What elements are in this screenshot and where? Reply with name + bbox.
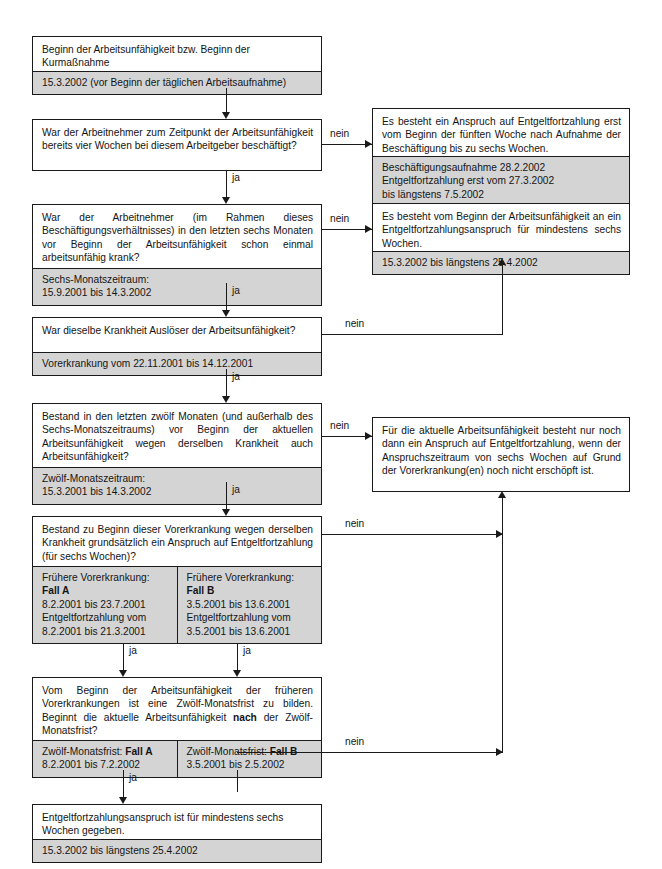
arrowhead-down-q3: [222, 310, 230, 317]
arrowhead-down-q5: [222, 509, 230, 516]
node-q5-columns: Frühere Vorerkrankung: Fall A 8.2.2001 b…: [33, 566, 321, 643]
node-q4: Bestand in den letzten zwölf Monaten (un…: [32, 403, 322, 505]
node-q3-question: War dieselbe Krankheit Auslöser der Arbe…: [33, 318, 321, 352]
connector-q3-nein-horizontal: [322, 334, 503, 335]
label-q3-ja: ja: [232, 371, 240, 383]
node-end-question: Entgeltfortzahlungsanspruch ist für mind…: [33, 805, 321, 839]
node-end-data: 15.3.2002 bis längstens 25.4.2002: [33, 839, 321, 862]
node-q1-question: War der Arbeitnehmer zum Zeitpunkt der A…: [33, 120, 321, 170]
node-r1-question: Es besteht ein Anspruch auf Entgeltfortz…: [373, 109, 629, 156]
arrowhead-down-q1: [222, 112, 230, 119]
arrowhead-up-r3: [498, 491, 506, 498]
arrowhead-down-q4: [222, 396, 230, 403]
node-q6-emphasis: nach: [233, 712, 257, 723]
node-r3-question: Für die aktuelle Arbeitsunfähigkeit best…: [373, 418, 629, 491]
node-r1-data: Beschäftigungsaufnahme 28.2.2002 Entgelt…: [373, 156, 629, 206]
node-q6-column-fall-a: Zwölf-Monatsfrist: Fall A 8.2.2001 bis 7…: [33, 741, 177, 777]
label-q4-ja: ja: [232, 484, 240, 496]
label-q5-ja-fall-b: ja: [243, 645, 251, 657]
label-q3-nein: nein: [345, 318, 364, 330]
arrowhead-down-q6-left: [119, 670, 127, 677]
arrowhead-down-q6-right: [233, 670, 241, 677]
label-q6-ja: ja: [129, 772, 137, 784]
node-start-question: Beginn der Arbeitsunfähigkeit bzw. Begin…: [33, 37, 321, 71]
node-q4-data: Zwölf-Monatszeitraum: 15.3.2001 bis 14.3…: [33, 467, 321, 504]
arrowhead-right-trunk-q6: [496, 748, 503, 756]
node-start: Beginn der Arbeitsunfähigkeit bzw. Begin…: [32, 36, 322, 95]
node-q6-a-label: Zwölf-Monatsfrist:: [42, 746, 125, 757]
node-start-data: 15.3.2002 (vor Beginn der täglichen Arbe…: [33, 71, 321, 94]
node-r2-question: Es besteht vom Beginn der Arbeitsunfähig…: [373, 204, 629, 251]
arrowhead-right-r1: [365, 140, 372, 148]
label-q2-nein: nein: [330, 213, 349, 225]
node-r1: Es besteht ein Anspruch auf Entgeltfortz…: [372, 108, 630, 207]
connector-q5-nein: [322, 534, 503, 535]
label-q6-nein: nein: [345, 736, 364, 748]
arrowhead-down-q2: [222, 197, 230, 204]
label-q5-ja-fall-a: ja: [129, 645, 137, 657]
connector-q6-nein-vertical: [237, 770, 238, 792]
label-q1-nein: nein: [330, 128, 349, 140]
connector-q6-nein-horizontal: [237, 752, 503, 753]
node-q3: War dieselbe Krankheit Auslöser der Arbe…: [32, 317, 322, 376]
arrowhead-right-trunk-q5: [496, 530, 503, 538]
node-r3: Für die aktuelle Arbeitsunfähigkeit best…: [372, 417, 630, 492]
case-label-fall-a: Fall A: [42, 584, 171, 597]
node-q5-column-fall-a: Frühere Vorerkrankung: Fall A 8.2.2001 b…: [33, 567, 177, 643]
label-q1-ja: ja: [232, 172, 240, 184]
node-q6: Vom Beginn der Arbeitsunfähigkeit der fr…: [32, 677, 322, 778]
node-q6-a-case: Fall A: [125, 746, 152, 757]
label-q4-nein: nein: [330, 420, 349, 432]
node-q6-columns: Zwölf-Monatsfrist: Fall A 8.2.2001 bis 7…: [33, 740, 321, 777]
connector-q3-nein-vertical: [502, 264, 503, 334]
label-q5-nein: nein: [345, 518, 364, 530]
arrowhead-up-r2: [498, 258, 506, 265]
node-q3-data: Vorerkrankung vom 22.11.2001 bis 14.12.2…: [33, 352, 321, 375]
flowchart-canvas: Beginn der Arbeitsunfähigkeit bzw. Begin…: [0, 0, 662, 869]
node-end: Entgeltfortzahlungsanspruch ist für mind…: [32, 804, 322, 863]
node-q6-question: Vom Beginn der Arbeitsunfähigkeit der fr…: [33, 678, 321, 740]
node-q1: War der Arbeitnehmer zum Zeitpunkt der A…: [32, 119, 322, 171]
node-q4-question: Bestand in den letzten zwölf Monaten (un…: [33, 404, 321, 467]
node-q2-data: Sechs-Monatszeitraum: 15.9.2001 bis 14.3…: [33, 268, 321, 305]
arrowhead-down-end: [119, 797, 127, 804]
label-q2-ja: ja: [232, 285, 240, 297]
node-q2: War der Arbeitnehmer (im Rahmen dieses B…: [32, 204, 322, 306]
arrowhead-right-r3: [365, 432, 372, 440]
node-q5: Bestand zu Beginn dieser Vorerkrankung w…: [32, 516, 322, 644]
node-q5-question: Bestand zu Beginn dieser Vorerkrankung w…: [33, 517, 321, 566]
case-label-fall-b: Fall B: [187, 584, 316, 597]
node-q2-question: War der Arbeitnehmer (im Rahmen dieses B…: [33, 205, 321, 268]
node-q5-column-fall-b: Frühere Vorerkrankung: Fall B 3.5.2001 b…: [177, 567, 322, 643]
node-q6-column-fall-b: Zwölf-Monatsfrist: Fall B 3.5.2001 bis 2…: [177, 741, 322, 777]
arrowhead-right-r2: [365, 225, 372, 233]
